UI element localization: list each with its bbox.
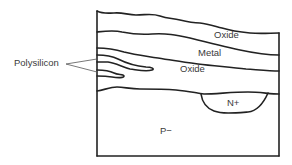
- polysilicon-finger-lower: [97, 70, 124, 78]
- top-surface-line: [97, 11, 279, 33]
- label-p-minus: P−: [160, 126, 172, 136]
- label-polysilicon: Polysilicon: [14, 58, 59, 68]
- label-metal: Metal: [198, 48, 221, 58]
- polysilicon-finger-upper: [97, 55, 153, 71]
- label-top-oxide: Oxide: [214, 30, 239, 40]
- polysilicon-leader-lower: [66, 64, 97, 72]
- label-n-plus: N+: [227, 98, 239, 108]
- substrate-surface: [97, 87, 279, 94]
- label-mid-oxide: Oxide: [180, 64, 205, 74]
- polysilicon-leader-upper: [66, 59, 97, 64]
- cross-section-drawing: [0, 0, 292, 165]
